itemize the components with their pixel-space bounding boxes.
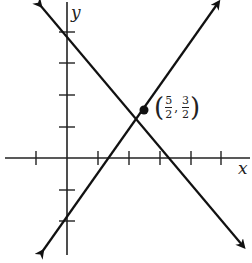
x-fraction: 5 2 (165, 95, 172, 120)
x-axis-label: x (238, 158, 248, 178)
y-fraction: 3 2 (182, 95, 189, 120)
intersection-label: ( 5 2 , 3 2 ) (154, 94, 200, 120)
intersection-point (140, 106, 149, 115)
y-axis-label: y (71, 2, 81, 22)
coordinate-plane (0, 0, 252, 263)
close-paren: ) (190, 94, 200, 120)
open-paren: ( (154, 94, 164, 120)
